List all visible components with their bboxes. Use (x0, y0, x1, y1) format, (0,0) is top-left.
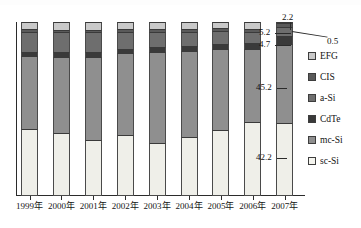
bar-2003年 (149, 22, 166, 196)
leader-line-cdte (275, 45, 291, 46)
legend-item-a-Si[interactable]: a-Si (308, 88, 360, 108)
legend-item-mc-Si[interactable]: mc-Si (308, 130, 360, 150)
callout-asi-2007: 5.2 (259, 27, 270, 37)
x-axis-label-2000年: 2000年 (45, 200, 77, 212)
x-axis-label-2006年: 2006年 (237, 200, 269, 212)
bar-2000年 (53, 22, 70, 196)
bar-segment-sc-Si (181, 137, 198, 196)
bar-1999年 (21, 22, 38, 196)
bar-2001年 (85, 22, 102, 196)
bar-2002年 (117, 22, 134, 196)
bar-segment-a-Si (21, 32, 38, 53)
legend-swatch-icon-mc-Si (308, 136, 316, 144)
bar-segment-a-Si (181, 32, 198, 47)
bar-segment-mc-Si (85, 57, 102, 141)
x-axis-label-2001年: 2001年 (77, 200, 109, 212)
bar-segment-sc-Si (117, 135, 134, 196)
x-axis-label-2004年: 2004年 (173, 200, 205, 212)
callout-efg-2007: 0.5 (327, 36, 338, 46)
legend-item-sc-Si[interactable]: sc-Si (308, 151, 360, 171)
bar-segment-a-Si (212, 31, 229, 44)
legend-item-CIS[interactable]: CIS (308, 67, 360, 87)
callout-cis-2007: 2.2 (282, 12, 293, 22)
bar-segment-mc-Si (149, 52, 166, 143)
leader-line-mcsi (277, 88, 287, 89)
legend-label: EFG (320, 51, 338, 62)
legend-swatch-icon-CdTe (308, 115, 316, 123)
scan-artifact-band (0, 0, 361, 5)
x-axis-label-2007年: 2007年 (269, 200, 301, 212)
bar-segment-a-Si (85, 32, 102, 52)
legend-swatch-icon-sc-Si (308, 157, 316, 165)
bar-segment-mc-Si (212, 49, 229, 130)
x-axis-labels: 1999年2000年2001年2002年2003年2004年2005年2006年… (16, 200, 305, 218)
bar-segment-a-Si (117, 32, 134, 49)
callout-mcsi-2007: 45.2 (256, 82, 272, 92)
x-axis-label-2003年: 2003年 (141, 200, 173, 212)
leader-line-asi (275, 33, 291, 34)
callout-scsi-2007: 42.2 (256, 152, 272, 162)
legend-label: mc-Si (320, 135, 343, 146)
legend-label: sc-Si (320, 156, 339, 167)
bar-segment-a-Si (53, 32, 70, 52)
bar-segment-EFG (181, 22, 198, 29)
bar-segment-mc-Si (276, 44, 293, 123)
bar-segment-EFG (53, 22, 70, 30)
bar-segment-sc-Si (53, 133, 70, 196)
legend-label: a-Si (320, 93, 335, 104)
legend-swatch-icon-EFG (308, 52, 316, 60)
bar-segment-a-Si (149, 32, 166, 48)
legend-item-EFG[interactable]: EFG (308, 46, 360, 66)
bar-segment-EFG (149, 22, 166, 29)
x-axis-label-1999年: 1999年 (14, 200, 46, 212)
bar-segment-EFG (21, 22, 38, 29)
bar-segment-sc-Si (85, 140, 102, 196)
leader-line-scsi (277, 158, 287, 159)
bar-segment-sc-Si (21, 129, 38, 196)
bar-segment-EFG (85, 22, 102, 30)
bar-segment-mc-Si (117, 53, 134, 135)
bar-segment-sc-Si (149, 143, 166, 196)
legend-label: CIS (320, 72, 335, 83)
x-axis-label-2005年: 2005年 (205, 200, 237, 212)
bar-2007年 (276, 22, 293, 196)
legend-swatch-icon-a-Si (308, 94, 316, 102)
bar-segment-sc-Si (212, 130, 229, 196)
bar-segment-mc-Si (181, 51, 198, 137)
bar-segment-EFG (117, 22, 134, 29)
legend-swatch-icon-CIS (308, 73, 316, 81)
bar-segment-mc-Si (21, 56, 38, 129)
legend-label: CdTe (320, 114, 340, 125)
legend: EFGCISa-SiCdTemc-Sisc-Si (308, 46, 360, 172)
stacked-bar-chart: 1999年2000年2001年2002年2003年2004年2005年2006年… (0, 0, 361, 228)
bar-2005年 (212, 22, 229, 196)
legend-item-CdTe[interactable]: CdTe (308, 109, 360, 129)
leader-line-cis (290, 22, 291, 30)
x-axis-label-2002年: 2002年 (109, 200, 141, 212)
bar-segment-sc-Si (276, 123, 293, 196)
callout-cdte-2007: 4.7 (259, 39, 270, 49)
bar-2004年 (181, 22, 198, 196)
bar-segment-CdTe (276, 36, 293, 44)
bar-segment-mc-Si (53, 57, 70, 134)
